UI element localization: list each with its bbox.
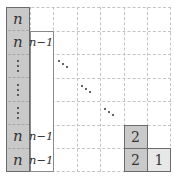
cell-n-minus-1: n−1 (30, 148, 54, 172)
cell-n: n (6, 31, 30, 55)
diagonal-ellipsis-icon (58, 60, 72, 70)
vertical-ellipsis-icon (6, 54, 30, 78)
cell-n: n (6, 125, 30, 149)
cell-n: n (6, 7, 30, 31)
cell-n: n (6, 148, 30, 172)
cell-n-minus-1: n−1 (30, 31, 54, 55)
diagonal-ellipsis-icon (81, 85, 95, 95)
cell-n-minus-1: n−1 (30, 125, 54, 149)
diagonal-ellipsis-icon (104, 108, 118, 118)
cell-2-upper: 2 (124, 125, 148, 149)
young-diagram: n n n n n−1 n−1 n−1 2 2 1 (6, 7, 171, 172)
cell-2-lower: 2 (124, 148, 148, 172)
grid-line (6, 7, 171, 8)
vertical-ellipsis-icon (6, 78, 30, 102)
vertical-ellipsis-icon (6, 101, 30, 125)
cell-1: 1 (147, 148, 171, 172)
